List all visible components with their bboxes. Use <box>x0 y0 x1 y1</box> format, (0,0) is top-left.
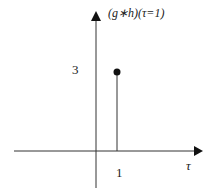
stem-plot <box>0 0 216 196</box>
x-tick-label: 1 <box>116 165 123 181</box>
y-axis-arrow-icon <box>91 11 101 21</box>
y-tick-label: 3 <box>72 62 79 78</box>
x-axis-arrow-icon <box>194 146 203 156</box>
chart-title: (g∗h)(τ=1) <box>108 6 164 21</box>
x-axis-label: τ <box>186 158 191 174</box>
stem-marker <box>114 69 121 76</box>
